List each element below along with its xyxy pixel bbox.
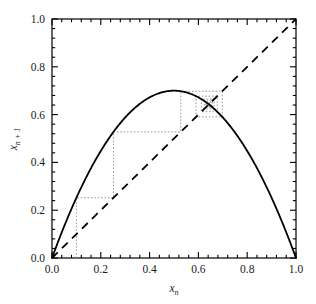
x-tick-label: 0.0 (45, 263, 60, 275)
x-tick-label: 0.2 (94, 263, 109, 275)
y-tick-label: 0.0 (31, 252, 46, 264)
x-tick-label: 0.8 (240, 263, 255, 275)
x-tick-label: 0.6 (191, 263, 206, 275)
y-tick-label: 0.2 (31, 204, 46, 216)
x-tick-labels: 0.00.20.40.60.81.0 (45, 263, 304, 275)
x-tick-label: 1.0 (289, 263, 304, 275)
cobweb-plot: 0.00.20.40.60.81.0 0.00.20.40.60.81.0 xn… (0, 0, 316, 304)
y-tick-label: 0.8 (31, 61, 46, 73)
y-tick-label: 1.0 (31, 13, 46, 25)
cobweb-trajectory-path (76, 91, 222, 258)
identity-diagonal-path (52, 19, 296, 258)
x-axis-title: xn (168, 282, 178, 297)
y-axis-title: xn + 1 (7, 128, 22, 152)
y-tick-label: 0.4 (31, 156, 46, 168)
logistic-map-curve (52, 91, 296, 258)
figure-container: 0.00.20.40.60.81.0 0.00.20.40.60.81.0 xn… (0, 0, 316, 304)
y-tick-labels: 0.00.20.40.60.81.0 (31, 13, 46, 264)
y-tick-label: 0.6 (31, 109, 46, 121)
x-tick-label: 0.4 (142, 263, 157, 275)
